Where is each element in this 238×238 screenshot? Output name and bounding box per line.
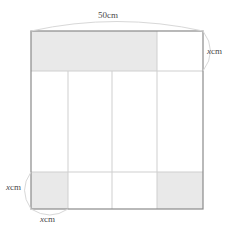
dimension-label-bottom-unit: cm xyxy=(44,214,55,224)
dimension-label-bottom: xcm xyxy=(40,214,55,224)
shaded-region-bottom-left-cell xyxy=(31,172,68,209)
shaded-region-top-band xyxy=(31,31,157,71)
dimension-label-right-unit: cm xyxy=(211,46,222,56)
dimension-label-bottom-left: xcm xyxy=(6,182,21,192)
dimension-label-bottom-left-unit: cm xyxy=(10,182,21,192)
geometry-figure xyxy=(0,0,238,238)
dimension-label-right: xcm xyxy=(207,46,222,56)
dimension-arc-top xyxy=(31,22,203,32)
dimension-label-top: 50cm xyxy=(98,10,118,20)
dimension-label-top-text: 50cm xyxy=(98,10,118,20)
dimension-arc-bottom-left xyxy=(25,172,32,209)
shaded-region-bottom-right-band xyxy=(157,172,203,209)
